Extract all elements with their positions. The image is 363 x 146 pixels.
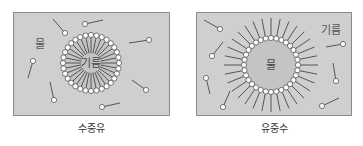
svg-text:물: 물 (266, 59, 276, 72)
water-in-oil-caption: 유중수 (224, 120, 324, 135)
oil-in-water-caption: 수중유 (41, 120, 141, 135)
svg-text:기름: 기름 (321, 24, 341, 37)
oil-in-water-svg: 기름물 (13, 12, 170, 116)
svg-text:기름: 기름 (81, 57, 101, 70)
svg-text:물: 물 (35, 38, 45, 51)
water-in-oil-diagram: 물기름 (196, 12, 352, 116)
water-in-oil-svg: 물기름 (196, 12, 352, 116)
oil-in-water-diagram: 기름물 (13, 12, 170, 116)
